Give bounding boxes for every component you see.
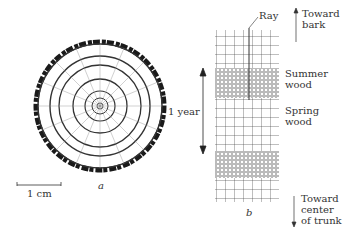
one-year-label: 1 year (168, 106, 200, 117)
trunk-cross-section (36, 42, 164, 170)
toward-center-arrow (292, 196, 296, 227)
scale-bar-label: 1 cm (27, 188, 52, 199)
spring-wood-label: Spring wood (285, 105, 319, 127)
summer-wood-band-lower (215, 151, 279, 178)
scale-bar (17, 182, 61, 186)
ray-label: Ray (259, 10, 278, 21)
toward-bark-arrow (294, 8, 298, 42)
toward-bark-label: Toward bark (302, 8, 340, 30)
one-year-arrow (200, 68, 206, 154)
wood-cell-strip (215, 17, 279, 202)
summer-wood-label: Summer wood (285, 68, 328, 90)
panel-a-label: a (98, 180, 104, 191)
summer-wood-band-upper (215, 68, 279, 98)
panel-b-label: b (246, 207, 252, 218)
toward-center-label: Toward center of trunk (301, 193, 342, 226)
